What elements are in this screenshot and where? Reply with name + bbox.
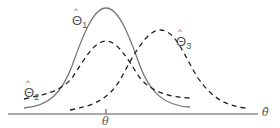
- label-theta-hat-3-subscript: 3: [186, 41, 191, 51]
- label-theta-hat-1-subscript: 1: [82, 20, 87, 30]
- label-theta-hat-2-subscript: 2: [34, 92, 39, 102]
- estimator-distributions-diagram: [0, 0, 280, 128]
- curve-theta-hat-2: [24, 41, 190, 99]
- axis-label: θ̂: [262, 106, 269, 119]
- label-theta-hat-1-symbol: Θ: [72, 14, 82, 27]
- theta-tick-label: θ: [102, 115, 109, 128]
- label-theta-hat-3-symbol: Θ: [176, 35, 186, 48]
- curve-theta-hat-1: [24, 8, 190, 108]
- label-theta-hat-1: Θ1: [72, 14, 87, 30]
- label-theta-hat-2: Θ2: [24, 86, 39, 102]
- curve-theta-hat-3: [70, 30, 246, 110]
- label-theta-hat-2-symbol: Θ: [24, 86, 34, 99]
- label-theta-hat-3: Θ3: [176, 35, 191, 51]
